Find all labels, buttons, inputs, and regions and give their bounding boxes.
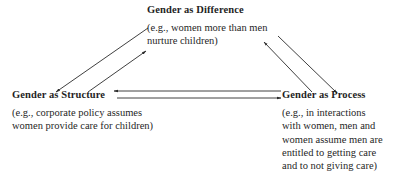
node-title: Gender as Process [282, 88, 383, 101]
example-line: women provide care for children) [12, 119, 153, 132]
example-line: and to not giving care) [282, 159, 383, 172]
example-line: (e.g., in interactions [282, 106, 383, 119]
example-line: women assume men are [282, 133, 383, 146]
example-line: entitled to getting care [282, 146, 383, 159]
arrow-difference-to-structure [56, 28, 148, 92]
node-title: Gender as Difference [147, 3, 267, 16]
node-title: Gender as Structure [12, 88, 153, 101]
example-line: (e.g., women more than men [147, 21, 267, 34]
example-line: nurture children) [147, 34, 267, 47]
node-gender-as-difference: Gender as Difference (e.g., women more t… [147, 3, 267, 48]
example-line: (e.g., corporate policy assumes [12, 106, 153, 119]
arrow-difference-to-process [278, 36, 337, 93]
arrow-process-to-difference [264, 42, 312, 92]
node-example: (e.g., in interactions with women, men a… [282, 106, 383, 172]
example-line: with women, men and [282, 119, 383, 132]
node-example: (e.g., corporate policy assumes women pr… [12, 106, 153, 133]
arrow-structure-to-difference [88, 51, 146, 92]
node-gender-as-process: Gender as Process (e.g., in interactions… [282, 88, 383, 172]
node-example: (e.g., women more than men nurture child… [147, 21, 267, 48]
node-gender-as-structure: Gender as Structure (e.g., corporate pol… [12, 88, 153, 133]
